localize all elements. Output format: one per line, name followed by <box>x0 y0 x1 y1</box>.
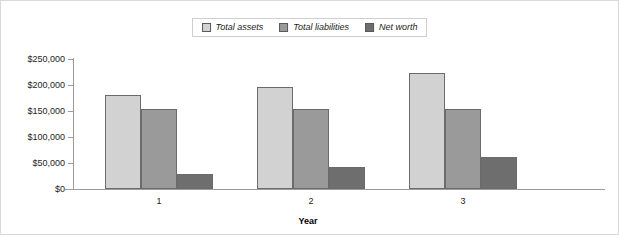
bar <box>177 174 213 189</box>
x-axis-title: Year <box>298 217 317 226</box>
y-tick-label: $250,000 <box>27 55 65 64</box>
legend-swatch-net-worth <box>365 23 374 32</box>
y-tick-label: $100,000 <box>27 133 65 142</box>
y-tick-mark <box>68 137 73 138</box>
y-tick-label: $200,000 <box>27 81 65 90</box>
legend-swatch-total-liabilities <box>279 23 288 32</box>
bar <box>257 87 293 189</box>
y-tick-mark <box>68 59 73 60</box>
legend-swatch-total-assets <box>202 23 211 32</box>
bar <box>141 109 177 189</box>
y-tick-mark <box>68 111 73 112</box>
bar <box>481 157 517 189</box>
legend-item-net-worth: Net worth <box>365 23 418 32</box>
bar <box>105 95 141 189</box>
plot-area: $250,000$200,000$150,000$100,000$50,000$… <box>73 59 543 189</box>
chart-legend: Total assets Total liabilities Net worth <box>192 18 428 37</box>
legend-label-net-worth: Net worth <box>379 23 418 32</box>
chart-figure: Total assets Total liabilities Net worth… <box>0 0 619 235</box>
legend-label-total-liabilities: Total liabilities <box>293 23 349 32</box>
bar <box>409 73 445 189</box>
bar <box>293 109 329 189</box>
x-tick-label: 3 <box>460 197 465 206</box>
y-tick-mark <box>68 85 73 86</box>
y-axis-line <box>73 58 74 190</box>
legend-item-total-liabilities: Total liabilities <box>279 23 349 32</box>
y-tick-label: $150,000 <box>27 107 65 116</box>
y-tick-mark <box>68 163 73 164</box>
y-tick-mark <box>68 189 73 190</box>
x-tick-label: 1 <box>156 197 161 206</box>
x-tick-label: 2 <box>308 197 313 206</box>
x-axis-line <box>65 189 605 190</box>
legend-label-total-assets: Total assets <box>216 23 264 32</box>
legend-item-total-assets: Total assets <box>202 23 264 32</box>
y-tick-label: $0 <box>55 185 65 194</box>
bar <box>329 167 365 189</box>
y-tick-label: $50,000 <box>32 159 65 168</box>
bar <box>445 109 481 189</box>
